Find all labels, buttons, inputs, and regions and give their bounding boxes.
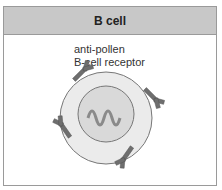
b-cell-diagram [0, 0, 222, 190]
